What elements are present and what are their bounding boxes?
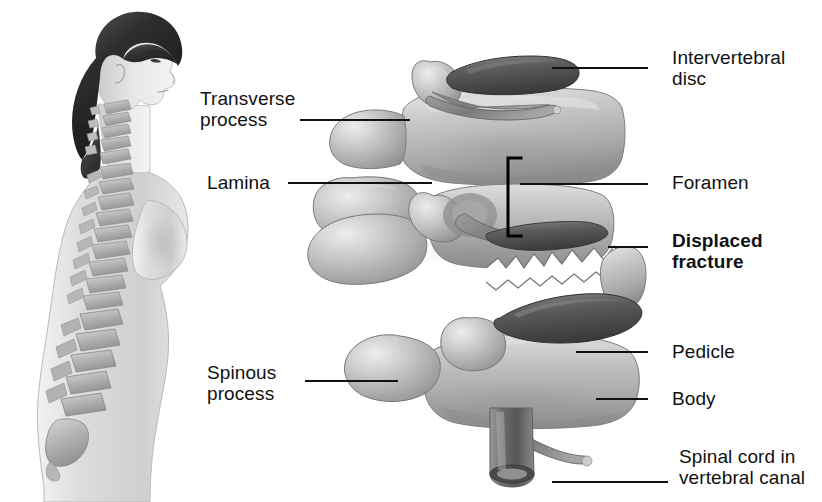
shadow-top xyxy=(430,128,570,172)
nerve-tip-bottom xyxy=(582,456,592,466)
label-pedicle: Pedicle xyxy=(672,341,735,362)
transverse-process-top xyxy=(330,110,406,169)
shadow-bottom xyxy=(440,378,600,422)
label-transverse-process: Transverse process xyxy=(200,88,295,130)
label-spinal-cord: Spinal cord in vertebral canal xyxy=(679,446,805,488)
label-spinous-process: Spinous process xyxy=(207,362,276,404)
label-intervertebral-disc: Intervertebral disc xyxy=(672,47,785,89)
lamina-bottom xyxy=(345,335,441,402)
label-body: Body xyxy=(672,388,716,409)
female-profile-figure xyxy=(37,12,188,502)
label-displaced-fracture: Displaced fracture xyxy=(672,230,763,272)
nerve-tip-top xyxy=(553,106,561,114)
label-lamina: Lamina xyxy=(207,172,270,193)
label-foramen: Foramen xyxy=(672,172,749,193)
breast-shadow xyxy=(142,216,182,270)
figure-canvas: Intervertebral disc Transverse process L… xyxy=(0,0,822,502)
spinal-cord-inner xyxy=(497,469,527,480)
